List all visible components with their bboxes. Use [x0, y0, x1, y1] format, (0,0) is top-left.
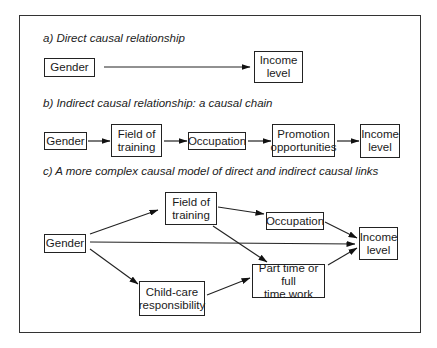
node-b-gender: Gender [44, 132, 87, 150]
arrow-c-gender-field [90, 210, 158, 234]
arrow-c-parttime-income [328, 248, 357, 265]
node-a-gender: Gender [44, 58, 95, 77]
arrow-c-field-occupation [218, 207, 264, 214]
arrow-c-occupation-income [325, 222, 357, 238]
node-c-child-care-responsibility: Child-care responsibility [139, 281, 205, 316]
node-c-field-of-training: Field of training [165, 192, 217, 225]
section-c-title: c) A more complex causal model of direct… [43, 165, 378, 177]
node-c-gender: Gender [44, 234, 86, 253]
node-c-part-time-or-full-time-work: Part time or full time work [252, 264, 325, 298]
node-a-income-level: Income level [254, 51, 303, 83]
section-a-title: a) Direct causal relationship [43, 32, 185, 44]
arrow-c-childcare-parttime [207, 278, 250, 295]
node-c-occupation: Occupation [266, 212, 324, 230]
node-b-occupation: Occupation [188, 132, 246, 150]
arrow-c-gender-childcare [90, 249, 138, 284]
arrow-c-field-parttime [213, 226, 267, 262]
node-c-income-level: Income level [359, 227, 398, 260]
arrow-c-gender-income [90, 242, 355, 244]
node-b-income-level: Income level [360, 124, 400, 158]
node-b-promotion-opportunities: Promotion opportunities [272, 124, 335, 157]
section-b-title: b) Indirect causal relationship: a causa… [43, 97, 273, 109]
node-b-field-of-training: Field of training [111, 124, 162, 157]
